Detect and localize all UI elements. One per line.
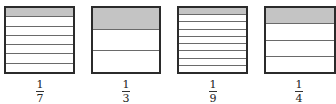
unshaded-part [179, 21, 246, 28]
unshaded-part [266, 40, 334, 56]
unshaded-part [179, 65, 246, 72]
unshaded-part [266, 56, 334, 72]
numerator: 1 [116, 79, 136, 90]
unshaded-part [179, 43, 246, 50]
unshaded-part [93, 50, 159, 72]
fraction-label: 1 4 [289, 79, 309, 104]
numerator: 1 [203, 79, 223, 90]
fraction-label: 1 3 [116, 79, 136, 104]
unshaded-part [6, 63, 73, 72]
fraction-bar-sevenths [4, 6, 75, 74]
denominator: 3 [116, 93, 136, 104]
fraction-label: 1 7 [30, 79, 50, 104]
fraction-bar-ninths [177, 6, 248, 74]
denominator: 9 [203, 93, 223, 104]
unshaded-part [6, 53, 73, 62]
shaded-part [266, 8, 334, 23]
unshaded-part [179, 36, 246, 43]
denominator: 4 [289, 93, 309, 104]
unshaded-part [179, 29, 246, 36]
unshaded-part [179, 14, 246, 21]
fraction-bar-thirds [91, 6, 161, 74]
fraction-bar-fourths [264, 6, 336, 74]
shaded-part [6, 8, 73, 16]
shaded-part [93, 8, 159, 29]
unshaded-part [266, 23, 334, 39]
unshaded-part [6, 26, 73, 35]
unshaded-part [93, 29, 159, 51]
fraction-label: 1 9 [203, 79, 223, 104]
unshaded-part [6, 35, 73, 44]
numerator: 1 [289, 79, 309, 90]
unshaded-part [179, 50, 246, 57]
unshaded-part [6, 16, 73, 25]
unshaded-part [6, 44, 73, 53]
unshaded-part [179, 58, 246, 65]
numerator: 1 [30, 79, 50, 90]
denominator: 7 [30, 93, 50, 104]
